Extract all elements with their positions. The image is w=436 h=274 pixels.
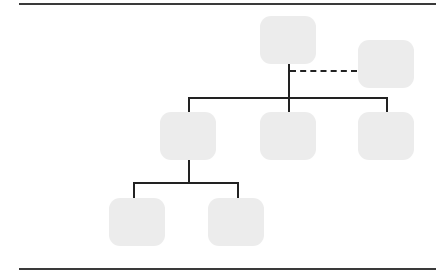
drop-child-2 (288, 97, 290, 112)
node-child-1[interactable] (160, 112, 216, 160)
node-child-1-label (160, 112, 216, 160)
node-grandchild-1[interactable] (109, 198, 165, 246)
node-grandchild-2[interactable] (208, 198, 264, 246)
drop-child-1 (188, 97, 190, 112)
node-root-label (260, 16, 316, 64)
node-child-2-label (260, 112, 316, 160)
node-assistant-label (358, 40, 414, 88)
node-assistant[interactable] (358, 40, 414, 88)
node-child-2[interactable] (260, 112, 316, 160)
node-root[interactable] (260, 16, 316, 64)
node-grandchild-2-label (208, 198, 264, 246)
level3-bar (133, 182, 239, 184)
drop-child-3 (386, 97, 388, 112)
bottom-rule (19, 268, 436, 270)
node-grandchild-1-label (109, 198, 165, 246)
child-1-stem (188, 160, 190, 184)
drop-grandchild-2 (237, 182, 239, 198)
top-rule (19, 3, 436, 5)
node-child-3[interactable] (358, 112, 414, 160)
drop-grandchild-1 (133, 182, 135, 198)
assistant-dashed-connector (290, 70, 357, 72)
node-child-3-label (358, 112, 414, 160)
